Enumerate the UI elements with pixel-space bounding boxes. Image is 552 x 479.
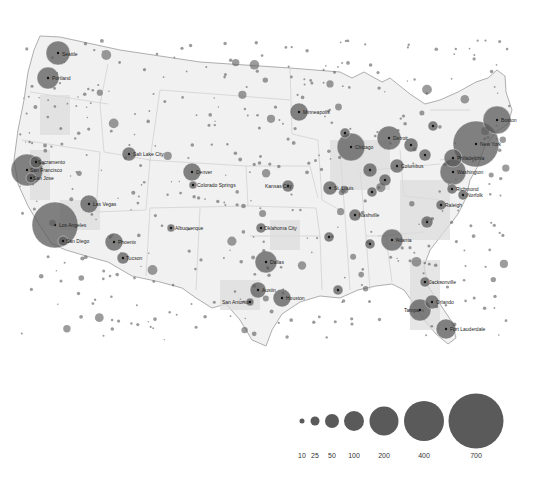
town-dot [493, 295, 496, 298]
town-dot [469, 224, 472, 227]
town-dot [439, 190, 441, 192]
town-dot [263, 241, 265, 243]
town-dot [364, 199, 367, 202]
town-dot [444, 163, 447, 166]
town-dot [92, 302, 95, 305]
town-dot [188, 249, 191, 252]
legend-item: 50 [325, 414, 339, 459]
town-dot [247, 114, 249, 116]
town-dot [506, 48, 509, 51]
town-dot [195, 326, 198, 329]
star-icon [344, 132, 346, 134]
town-dot [413, 78, 415, 80]
town-dot [330, 158, 332, 160]
town-dot [19, 133, 21, 135]
town-dot [57, 304, 59, 306]
town-dot [223, 257, 225, 259]
town-dot [259, 210, 266, 217]
town-dot [84, 255, 88, 259]
town-dot [163, 76, 165, 78]
town-dot [326, 80, 333, 87]
town-dot [327, 149, 331, 153]
town-dot [369, 170, 370, 171]
town-dot [74, 137, 76, 139]
city-label: Colorado Springs [197, 182, 236, 188]
town-dot [358, 272, 364, 278]
star-icon [329, 187, 331, 189]
town-dot [489, 172, 494, 177]
town-dot [261, 54, 264, 57]
town-dot [438, 125, 442, 129]
town-dot [149, 110, 151, 112]
city-label: Houston [286, 295, 305, 301]
town-dot [333, 71, 336, 74]
town-dot [326, 336, 328, 338]
town-dot [505, 319, 508, 322]
town-dot [427, 245, 430, 248]
town-dot [134, 134, 136, 136]
town-dot [455, 48, 457, 50]
town-dot [86, 106, 88, 108]
star-icon [337, 289, 339, 291]
town-dot [92, 89, 95, 92]
town-dot [465, 265, 467, 267]
town-dot [496, 64, 498, 66]
town-dot [232, 59, 239, 66]
town-dot [350, 317, 353, 320]
town-dot [251, 256, 255, 260]
town-dot [350, 254, 356, 260]
town-dot [25, 47, 28, 50]
star-icon [47, 77, 49, 79]
town-dot [303, 78, 305, 80]
town-dot [33, 105, 37, 109]
town-dot [208, 113, 212, 117]
town-dot [490, 222, 492, 224]
star-icon [431, 301, 433, 303]
town-dot [454, 142, 456, 144]
legend-circle [344, 411, 364, 431]
town-dot [236, 203, 239, 206]
town-dot [287, 138, 290, 141]
city-label: Las Vegas [93, 201, 117, 207]
town-dot [318, 316, 321, 319]
town-dot [77, 96, 79, 98]
town-dot [84, 42, 87, 45]
town-dot [163, 100, 166, 103]
town-dot [21, 333, 23, 335]
town-dot [256, 114, 259, 117]
town-dot [494, 86, 496, 88]
town-dot [191, 143, 195, 147]
town-dot [299, 209, 301, 211]
town-dot [249, 171, 251, 173]
city-label: Portland [52, 75, 71, 81]
town-dot [450, 221, 453, 224]
town-dot [258, 161, 262, 165]
star-icon [350, 146, 352, 148]
town-dot [413, 148, 417, 152]
legend-label: 50 [328, 452, 336, 459]
town-dot [412, 257, 422, 267]
city-label: Columbus [401, 163, 424, 169]
legend-label: 100 [348, 452, 360, 459]
town-dot [174, 57, 176, 59]
town-dot [197, 196, 200, 199]
town-dot [230, 315, 232, 317]
town-dot [426, 219, 429, 222]
town-dot [310, 82, 313, 85]
town-dot [485, 266, 487, 268]
town-dot [28, 96, 30, 98]
town-dot [47, 116, 50, 119]
town-dot [431, 217, 434, 220]
town-dot [323, 69, 325, 71]
town-dot [259, 155, 262, 158]
town-dot [489, 193, 491, 195]
legend-circle [325, 414, 339, 428]
town-dot [133, 277, 136, 280]
star-icon [391, 239, 393, 241]
town-dot [111, 327, 115, 331]
town-dot [413, 252, 415, 254]
town-dot [255, 41, 258, 44]
star-icon [432, 125, 434, 127]
star-icon [452, 171, 454, 173]
size-legend: 102550100200400700 [298, 394, 503, 460]
